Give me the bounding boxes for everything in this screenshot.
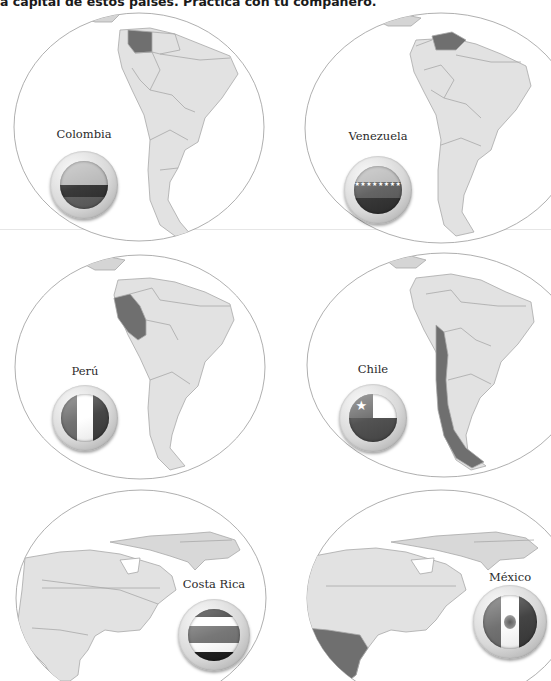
colombia-flag-icon — [50, 151, 118, 219]
country-label: Costa Rica — [183, 577, 245, 591]
south-america-map-icon — [0, 240, 275, 480]
coat-of-arms-icon — [504, 615, 517, 630]
country-label: Perú — [72, 364, 99, 378]
map-panel-venezuela: Venezuela ★★★★★★★★ — [276, 0, 551, 245]
country-label: México — [489, 570, 531, 584]
chile-flag-icon: ★ — [339, 384, 407, 452]
country-label: Venezuela — [348, 129, 407, 143]
map-panel-mexico: México — [276, 480, 551, 681]
south-america-map-icon — [276, 240, 551, 480]
country-label: Colombia — [56, 127, 111, 141]
costa-rica-flag-icon — [178, 599, 250, 671]
venezuela-flag-icon: ★★★★★★★★ — [344, 156, 412, 224]
stars-icon: ★★★★★★★★ — [354, 180, 403, 187]
country-label: Chile — [358, 362, 388, 376]
mexico-flag-icon — [473, 585, 547, 659]
south-america-map-icon — [276, 0, 551, 245]
south-america-map-icon — [0, 0, 275, 245]
map-panel-peru: Perú — [0, 240, 275, 480]
peru-flag-icon — [52, 385, 118, 451]
map-panel-chile: Chile ★ — [276, 240, 551, 480]
star-icon: ★ — [352, 398, 370, 414]
map-panel-colombia: Colombia — [0, 0, 275, 245]
map-panel-costa-rica: Costa Rica — [0, 480, 275, 681]
